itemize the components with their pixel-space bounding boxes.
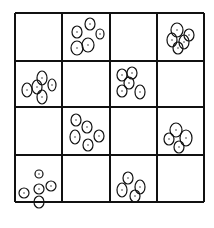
oval-center-dot [75,119,76,120]
oval-center-dot [51,84,52,85]
oval-center-dot [36,86,37,87]
oval-center-dot [50,185,51,186]
oval-center-dot [121,74,122,75]
grid-cell [62,107,110,155]
grid-cell [62,155,110,202]
oval-center-dot [41,77,42,78]
oval-center-dot [89,23,90,24]
oval-center-dot [38,173,39,174]
oval-center-dot [139,186,140,187]
grid-cell [157,107,204,155]
oval-center-dot [86,126,87,127]
oval-center-dot [121,189,122,190]
oval-center-dot [38,188,39,189]
grid-cell [157,13,204,61]
grid-cell [110,61,157,107]
oval-center-dot [168,138,169,139]
grid-cell [110,13,157,61]
grid-cell [62,61,110,107]
oval-center-dot [177,47,178,48]
grid-cell [15,13,62,61]
grid-cell [15,107,62,155]
oval-center-dot [175,129,176,130]
oval-center-dot [188,34,189,35]
oval-center-dot [139,91,140,92]
oval-center-dot [171,39,172,40]
oval-center-dot [76,31,77,32]
oval-center-dot [176,29,177,30]
oval-center-dot [183,41,184,42]
oval-center-dot [23,192,24,193]
oval-center-dot [128,82,129,83]
oval-center-dot [87,44,88,45]
oval-center-dot [99,33,100,34]
oval-center-dot [185,137,186,138]
oval-center-dot [134,195,135,196]
oval-center-dot [178,146,179,147]
oval-center-dot [26,89,27,90]
grid-cell [157,155,204,202]
oval-center-dot [127,177,128,178]
oval-center-dot [76,47,77,48]
grid-cell [15,61,62,107]
grid-cell [15,155,62,208]
grid-cell [110,155,157,202]
oval-center-dot [41,96,42,97]
oval-center-dot [98,135,99,136]
oval-center-dot [87,144,88,145]
grid-cell [157,61,204,107]
grid-diagram [0,0,214,228]
oval-center-dot [131,72,132,73]
oval-center-dot [121,90,122,91]
grid-cell [110,107,157,155]
grid-cell [62,13,110,61]
oval-center-dot [74,136,75,137]
